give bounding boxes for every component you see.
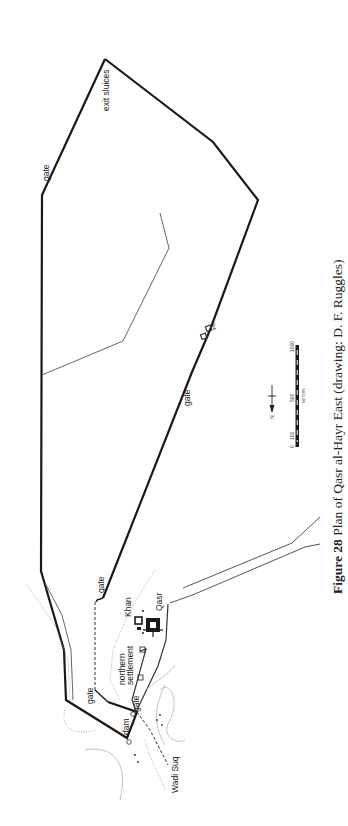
label-gate-east-wall: gate [182,389,192,406]
label-gate-north: gate [41,164,51,181]
west-wall-dotted [27,585,70,700]
figure-caption: Figure 28 Plan of Qasr al-Hayr East (dra… [330,259,345,594]
scale-tick-500: 500 [289,393,295,402]
contour-1 [160,687,185,741]
label-khan: Khan [123,597,133,617]
well-dot [159,714,161,716]
contour-5 [145,740,165,790]
label-exit-sluices: exit sluices [101,69,111,111]
north-arrow: N [268,385,276,419]
scale-tick-0: 0 [289,445,295,448]
label-northern-settlement-2: settlement [125,645,135,685]
gate-tower [200,333,206,339]
contour-6 [145,665,175,690]
label-gate-inner-lower: gate [85,687,95,704]
label-qasr: Qasr [154,592,164,611]
inner-gate-wall [95,690,108,702]
enclosure-wall-west [41,59,137,738]
well-dot [137,761,139,763]
label-wadi-suq: Wadi Suq [170,756,180,793]
north-label: N [269,415,275,419]
scale-bar: 0 100 500 1000 METERS [289,341,306,448]
label-gate-dam: gate [131,695,141,712]
inner-wall-segment [96,598,103,602]
label-gate-small: gate [211,321,216,330]
well-dot [161,724,163,726]
label-gate-inner-upper: gate [96,576,106,593]
site-plan-figure: exit sluices gate gate gate gate gate ga… [0,0,348,826]
well-dot [134,754,136,756]
road-lower [170,544,320,603]
sluice-circle [127,740,132,745]
contour-4 [64,710,95,732]
scale-tick-100: 100 [289,431,295,440]
label-dam: dam [121,718,131,735]
caption-label: Figure 28 [330,539,345,594]
road-upper [183,517,320,588]
well-dot [156,719,158,721]
scale-tick-1000: 1000 [289,341,295,352]
contour-3 [85,749,123,800]
inner-wall-line [42,213,169,375]
scale-unit: METERS [302,388,306,403]
khan-building [135,617,142,630]
enclosure-wall [103,59,258,598]
wadi-suq-channel [137,712,168,765]
qasr-building [142,610,163,637]
caption-text: Plan of Qasr al-Hayr East (drawing: D. F… [330,259,345,539]
